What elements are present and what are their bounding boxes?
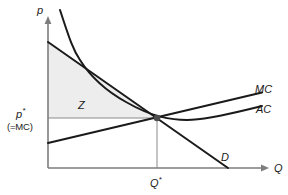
demand-curve-label: D [221,152,229,163]
equilibrium-point-marker [154,115,161,122]
average-cost-curve-label: AC [256,104,271,115]
x-axis-arrow-icon [261,165,269,172]
y-axis-label: p [37,5,43,16]
x-axis-label: Q [274,163,283,174]
marginal-cost-curve-label: MC [255,84,272,95]
quantity-star-tick-label: Q* [150,176,162,189]
quantity-tick-star: * [159,175,162,184]
consumer-surplus-region-label: Z [78,100,85,111]
economics-diagram-figure: p Q MC AC D Z p* (=MC) Q* [0,0,288,195]
price-equals-mc-note: (=MC) [7,122,33,132]
price-star-tick-label: p* [16,107,25,120]
y-axis-arrow-icon [45,16,52,24]
quantity-tick-letter: Q [150,177,159,189]
plot-canvas [0,0,288,195]
price-tick-star: * [22,106,25,115]
